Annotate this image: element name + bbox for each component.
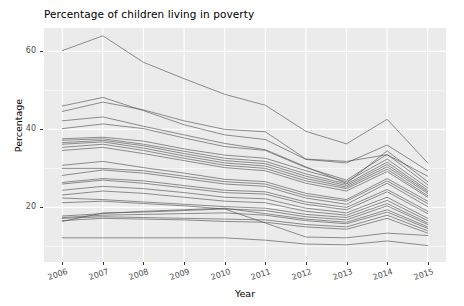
x-axis-tick-label: 2006	[42, 267, 70, 284]
series-line	[62, 140, 427, 191]
series-line	[62, 147, 427, 197]
y-axis-tick-mark	[40, 51, 43, 52]
series-line	[62, 215, 427, 231]
chart-figure: Percentage of children living in poverty…	[0, 0, 464, 306]
x-axis-tick-label: 2007	[82, 267, 110, 284]
plot-panel	[44, 28, 446, 262]
x-axis-tick-mark	[387, 262, 388, 265]
y-axis-tick-label: 40	[26, 124, 36, 133]
x-axis-tick-mark	[306, 262, 307, 265]
x-axis-tick-mark	[103, 262, 104, 265]
x-axis-tick-mark	[184, 262, 185, 265]
series-line	[62, 212, 427, 228]
x-axis-tick-mark	[225, 262, 226, 265]
chart-title: Percentage of children living in poverty	[44, 8, 254, 20]
x-axis-title: Year	[44, 288, 446, 299]
x-axis-tick-mark	[143, 262, 144, 265]
series-lines-group	[62, 36, 427, 246]
series-line	[62, 218, 427, 233]
x-axis-tick-label: 2008	[123, 267, 151, 284]
y-axis-tick-marks	[40, 0, 44, 306]
x-axis-tick-mark	[428, 262, 429, 265]
x-axis-tick-mark	[265, 262, 266, 265]
x-axis-tick-label: 2014	[366, 267, 394, 284]
x-axis-tick-label: 2013	[326, 267, 354, 284]
series-line	[62, 179, 427, 212]
y-axis-title: Percentage	[13, 86, 24, 166]
y-axis-tick-mark	[40, 207, 43, 208]
x-axis-tick-mark	[62, 262, 63, 265]
x-axis-tick-label: 2010	[204, 267, 232, 284]
y-axis-tick-label: 20	[26, 202, 36, 211]
y-axis-tick-label: 60	[26, 46, 36, 55]
series-line	[62, 102, 427, 176]
x-axis-tick-label: 2015	[407, 267, 435, 284]
x-axis-tick-label: 2012	[285, 267, 313, 284]
y-axis-tick-mark	[40, 129, 43, 130]
x-axis-tick-label: 2011	[245, 267, 273, 284]
x-axis-tick-mark	[347, 262, 348, 265]
series-line	[62, 117, 427, 183]
series-line	[62, 238, 427, 246]
x-axis-tick-label: 2009	[163, 267, 191, 284]
plot-lines-svg	[44, 28, 446, 262]
gridlines-major-x	[62, 28, 427, 262]
series-line	[62, 209, 427, 238]
